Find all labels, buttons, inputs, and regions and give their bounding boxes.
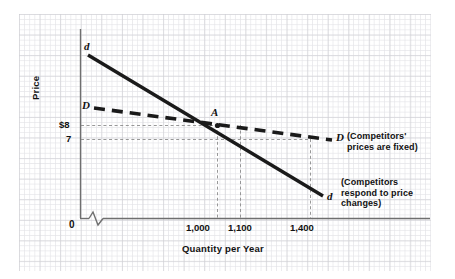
- x-tick-label-1100: 1,100: [228, 222, 252, 233]
- y-tick-label-price-7: 7: [66, 133, 71, 144]
- demand-curve-figure: Price Quantity per Year $8 7 0 1,000 1,1…: [0, 0, 455, 279]
- y-axis-title: Price: [30, 76, 41, 100]
- curve-label-d-upper: d: [84, 40, 90, 53]
- point-A-label: A: [211, 106, 218, 119]
- curve-label-d-lower: d: [327, 190, 333, 203]
- demand-curve-d-responsive: [88, 55, 323, 196]
- y-tick-label-price-8: $8: [59, 119, 70, 130]
- origin-label: 0: [69, 219, 75, 231]
- annotation-competitors-respond: (Competitors respond to price changes): [341, 177, 413, 209]
- x-axis-title: Quantity per Year: [182, 243, 264, 254]
- x-tick-label-1000: 1,000: [186, 222, 210, 233]
- point-A-marker: [215, 123, 220, 128]
- x-tick-label-1400: 1,400: [290, 222, 314, 233]
- annotation-prices-fixed: (Competitors' prices are fixed): [347, 131, 418, 152]
- axis-break-zigzag: [89, 212, 103, 225]
- curve-label-D-right: D: [336, 131, 344, 144]
- curve-label-D-left: D: [82, 99, 90, 112]
